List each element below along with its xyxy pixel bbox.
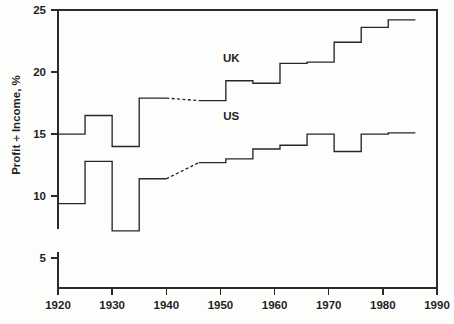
profit-income-line-chart: 5101520251920193019401950196019701980199… <box>0 0 454 324</box>
tick-marks-group: 5101520251920193019401950196019701980199… <box>33 4 450 311</box>
x-tick-label-1990: 1990 <box>424 299 450 311</box>
y-tick-label-15: 15 <box>33 128 46 140</box>
x-tick-label-1920: 1920 <box>45 299 71 311</box>
plot-frame <box>58 10 437 288</box>
series-us-step-path-0 <box>58 161 166 231</box>
x-tick-label-1930: 1930 <box>99 299 125 311</box>
x-tick-label-1970: 1970 <box>316 299 342 311</box>
y-tick-label-5: 5 <box>40 252 47 264</box>
x-tick-label-1950: 1950 <box>208 299 234 311</box>
series-annotation-uk: UK <box>223 52 240 64</box>
y-tick-label-20: 20 <box>33 66 46 78</box>
x-tick-label-1980: 1980 <box>370 299 396 311</box>
x-tick-label-1960: 1960 <box>262 299 288 311</box>
series-annotation-us: US <box>223 110 239 122</box>
series-uk-dashed-bridge <box>166 98 198 100</box>
y-axis-title: Profit ÷ Income, % <box>10 75 22 175</box>
axes-group <box>58 10 437 288</box>
x-tick-label-1940: 1940 <box>153 299 179 311</box>
series-uk-step-path-0 <box>58 98 166 146</box>
series-us-step-path-1 <box>199 133 416 163</box>
y-tick-label-10: 10 <box>33 190 46 202</box>
chart-container: 5101520251920193019401950196019701980199… <box>0 0 454 324</box>
series-us-dashed-bridge <box>166 163 198 179</box>
y-tick-label-25: 25 <box>33 4 46 16</box>
